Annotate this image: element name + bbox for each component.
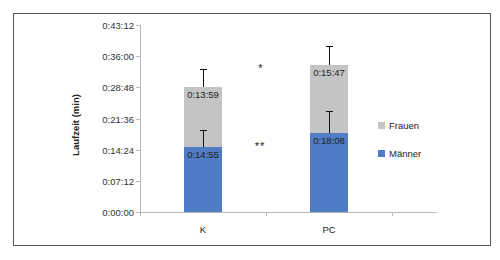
y-tick-label: 0:43:12: [102, 20, 134, 31]
error-bar-pc-frauen: [329, 46, 330, 65]
y-tick: [136, 150, 140, 151]
y-axis-title: Laufzeit (min): [70, 94, 81, 156]
bar-pc-maenner: 0:18:08: [310, 133, 348, 212]
y-tick-label: 0:21:36: [102, 114, 134, 125]
error-bar-k-maenner: [203, 130, 204, 147]
legend-label: Frauen: [389, 120, 419, 131]
error-bar-cap: [326, 111, 333, 112]
bar-value-label: 0:15:47: [310, 67, 348, 78]
legend-item-frauen: Frauen: [378, 120, 419, 131]
error-bar-cap: [200, 69, 207, 70]
y-tick: [136, 119, 140, 120]
error-bar-cap: [326, 46, 333, 47]
y-tick: [136, 56, 140, 57]
bar-value-label: 0:13:59: [184, 89, 222, 100]
y-tick-label: 0:07:12: [102, 176, 134, 187]
y-tick: [136, 87, 140, 88]
y-tick-label: 0:14:24: [102, 145, 134, 156]
error-bar-pc-maenner: [329, 111, 330, 133]
x-tick: [392, 212, 393, 216]
y-tick-label: 0:36:00: [102, 51, 134, 62]
y-tick-label: 0:28:48: [102, 82, 134, 93]
error-bar-k-frauen: [203, 69, 204, 87]
x-tick-label-k: K: [200, 224, 206, 235]
x-tick-label-pc: PC: [322, 224, 335, 235]
legend-swatch-frauen: [378, 122, 385, 129]
bar-value-label: 0:18:08: [310, 135, 348, 146]
x-tick: [266, 212, 267, 216]
y-tick-label: 0:00:00: [102, 207, 134, 218]
y-tick: [136, 25, 140, 26]
significance-frauen: *: [258, 62, 263, 74]
significance-maenner: **: [255, 140, 266, 152]
x-tick: [140, 212, 141, 216]
y-tick: [136, 181, 140, 182]
bar-value-label: 0:14:55: [184, 149, 222, 160]
legend-swatch-maenner: [378, 150, 385, 157]
legend-label: Männer: [389, 148, 421, 159]
y-axis-line: [140, 25, 141, 212]
legend-item-maenner: Männer: [378, 148, 421, 159]
bar-k-maenner: 0:14:55: [184, 147, 222, 212]
error-bar-cap: [200, 130, 207, 131]
